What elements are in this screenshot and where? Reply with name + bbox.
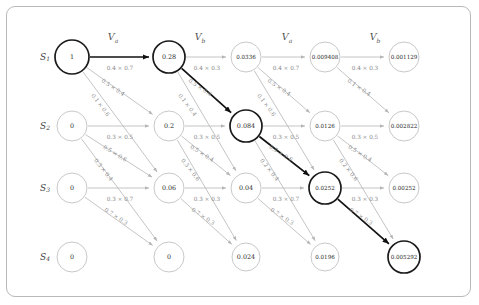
- node-value: 0.06: [162, 184, 176, 192]
- edge-weight-label: 0.1 × 0.4: [177, 92, 198, 117]
- node-value: 0.005292: [391, 254, 418, 260]
- node-value: 0.04: [239, 184, 253, 192]
- state-label: S1: [40, 52, 50, 62]
- observation-column-label: Va: [282, 31, 293, 44]
- edge-weight-label: 0.7 × 0.3: [348, 207, 374, 227]
- edge-weight-label: 0.5 × 0.4: [347, 144, 373, 163]
- state-label: S3: [40, 183, 50, 193]
- edge-layer: [82, 57, 394, 245]
- edge-weight-label: 0.3 × 0.6: [180, 157, 201, 182]
- edge-weight-label: 0.4 × 0.3: [194, 65, 221, 71]
- edge-weight-label: 0.4 × 0.7: [273, 65, 300, 71]
- trellis-edge: [258, 199, 311, 245]
- node-value: 0.084: [237, 122, 255, 130]
- node-value: 0: [70, 122, 74, 130]
- observation-column-label: Vb: [195, 31, 206, 44]
- edge-weight-label: 0.1 × 0.6: [256, 92, 277, 117]
- edge-weight-label: 0.3 × 0.3: [352, 196, 379, 202]
- diagram-canvas: 0.4 × 0.70.5 × 0.40.1 × 0.60.3 × 0.50.5 …: [0, 0, 479, 305]
- node-value: 0: [70, 184, 74, 192]
- node-value: 1: [70, 53, 74, 61]
- edge-weight-label: 0.3 × 0.5: [194, 134, 221, 140]
- edge-weight-label: 0.3 × 0.5: [273, 134, 300, 140]
- trellis-edge: [338, 199, 389, 244]
- edge-weight-label: 0.3 × 0.3: [194, 196, 221, 202]
- edge-weight-label: 0.3 × 0.4: [93, 157, 114, 182]
- edge-weight-label: 0.3 × 0.7: [107, 196, 134, 202]
- edge-weight-label: 0.3 × 0.5: [107, 134, 134, 140]
- edge-weight-label: 0.7 × 0.3: [103, 207, 129, 227]
- node-value: 0.001129: [391, 54, 418, 60]
- node-value: 0.0126: [315, 123, 335, 129]
- edge-weight-label: 0.2 × 0.4: [259, 157, 280, 182]
- edge-weight-label: 0.3 × 0.5: [352, 134, 379, 140]
- observation-column-label: Vb: [370, 31, 381, 44]
- edge-weight-label: 0.2 × 0.6: [338, 157, 359, 182]
- node-value: 0.00252: [392, 185, 416, 191]
- state-label: S4: [40, 252, 50, 262]
- edge-weight-label: 0.5 × 0.4: [100, 77, 126, 97]
- edge-weight-label: 0.3 × 0.7: [273, 196, 300, 202]
- trellis-diagram: 0.4 × 0.70.5 × 0.40.1 × 0.60.3 × 0.50.5 …: [0, 0, 479, 305]
- observation-column-label: Va: [108, 31, 119, 44]
- edge-weight-label: 0.7 × 0.3: [269, 207, 295, 227]
- node-value: 0.0252: [315, 185, 335, 191]
- node-value: 0.002822: [391, 123, 418, 129]
- edge-weight-label: 0.5 × 0.6: [268, 144, 294, 163]
- edge-label-layer: 0.4 × 0.70.5 × 0.40.1 × 0.60.3 × 0.50.5 …: [90, 65, 378, 226]
- state-label: S2: [40, 121, 50, 131]
- edge-weight-label: 0.1 × 0.4: [346, 77, 372, 97]
- node-value: 0.2: [164, 122, 174, 130]
- node-value: 0.28: [162, 53, 176, 61]
- edge-weight-label: 0.5 × 0.4: [266, 77, 292, 97]
- edge-weight-label: 0.5 × 0.4: [189, 144, 215, 163]
- edge-weight-label: 0.7 × 0.3: [190, 207, 216, 227]
- edge-weight-label: 0.4 × 0.3: [352, 65, 379, 71]
- node-value: 0.009408: [312, 54, 339, 60]
- node-value: 0: [167, 253, 171, 261]
- edge-weight-label: 0.4 × 0.7: [107, 65, 134, 71]
- edge-weight-label: 0.5 × 0.6: [102, 144, 128, 163]
- node-value: 0.0336: [236, 54, 256, 60]
- node-value: 0: [70, 253, 74, 261]
- node-value: 0.0196: [315, 254, 335, 260]
- node-value: 0.024: [237, 253, 255, 261]
